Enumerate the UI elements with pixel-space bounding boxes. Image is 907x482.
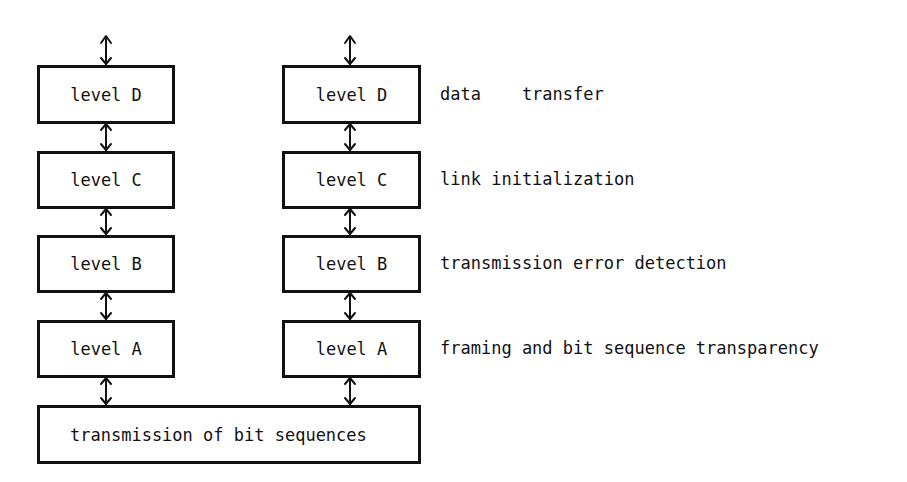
left-level-d-box: level D — [37, 65, 175, 124]
description-level-b: transmission error detection — [440, 253, 727, 273]
box-label: level C — [70, 170, 142, 190]
box-label: level D — [316, 85, 388, 105]
left-level-a-box: level A — [37, 320, 175, 378]
right-level-c-box: level C — [282, 151, 421, 209]
box-label: level C — [316, 170, 388, 190]
right-level-b-box: level B — [282, 235, 421, 293]
right-level-d-box: level D — [282, 65, 421, 124]
description-level-d: data transfer — [440, 84, 604, 104]
left-level-b-box: level B — [37, 235, 175, 293]
layer-diagram: level D level C level B level A level D … — [0, 0, 907, 482]
description-level-a: framing and bit sequence transparency — [440, 338, 819, 358]
left-level-c-box: level C — [37, 151, 175, 209]
box-label: transmission of bit sequences — [70, 425, 367, 445]
box-label: level B — [70, 254, 142, 274]
box-label: level A — [70, 339, 142, 359]
box-label: level D — [70, 85, 142, 105]
box-label: level A — [316, 339, 388, 359]
description-level-c: link initialization — [440, 169, 634, 189]
base-transmission-box: transmission of bit sequences — [37, 405, 421, 464]
right-level-a-box: level A — [282, 320, 421, 378]
box-label: level B — [316, 254, 388, 274]
